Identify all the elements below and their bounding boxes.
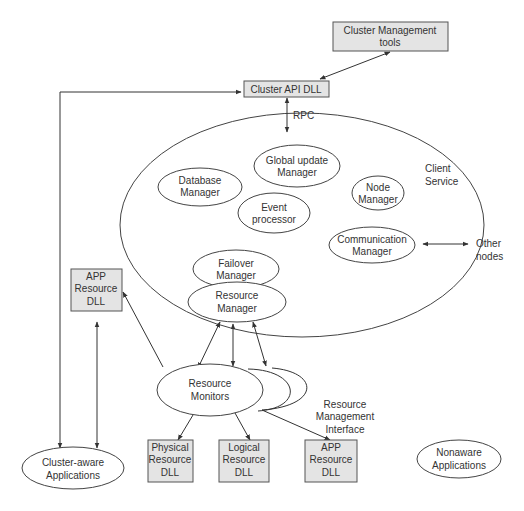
svg-text:APP: APP [86, 271, 106, 282]
svg-text:Resource: Resource [189, 378, 232, 389]
svg-text:Resource: Resource [75, 283, 118, 294]
svg-text:processor: processor [252, 214, 297, 225]
svg-text:Resource: Resource [324, 399, 367, 410]
ellipse-database-manager: Database Manager [158, 168, 242, 206]
svg-text:Resource: Resource [223, 454, 266, 465]
ellipse-event-processor: Event processor [238, 193, 310, 233]
ellipse-resource-monitors: Resource Monitors [157, 364, 263, 416]
svg-text:Monitors: Monitors [191, 391, 229, 402]
ellipse-nonaware-applications: Nonaware Applications [417, 440, 501, 478]
svg-text:Manager: Manager [217, 303, 257, 314]
svg-text:Interface: Interface [326, 424, 365, 435]
ellipse-resource-manager: Resource Manager [188, 282, 286, 322]
svg-text:Resource: Resource [310, 454, 353, 465]
svg-text:Manager: Manager [352, 246, 392, 257]
svg-text:Logical: Logical [228, 442, 260, 453]
svg-text:Client: Client [425, 163, 451, 174]
box-cluster-management-tools: Cluster Management tools [333, 22, 448, 51]
svg-text:Cluster Management: Cluster Management [344, 25, 437, 36]
svg-text:Cluster-aware: Cluster-aware [42, 457, 105, 468]
svg-text:Applications: Applications [46, 470, 100, 481]
svg-text:Resource: Resource [149, 454, 192, 465]
svg-text:DLL: DLL [235, 467, 254, 478]
svg-text:Failover: Failover [218, 258, 254, 269]
box-logical-resource-dll: Logical Resource DLL [219, 440, 269, 482]
cluster-architecture-diagram: Cluster Management tools Cluster API DLL… [0, 0, 524, 511]
monitor-stack-shadow [262, 368, 307, 410]
svg-text:Manager: Manager [216, 270, 256, 281]
svg-text:Physical: Physical [151, 442, 188, 453]
svg-text:Manager: Manager [277, 167, 317, 178]
box-app-resource-dll-left: APP Resource DLL [71, 269, 122, 311]
svg-text:Other: Other [476, 238, 502, 249]
other-nodes-label: Other nodes [476, 238, 503, 262]
ellipse-cluster-aware-applications: Cluster-aware Applications [22, 447, 124, 489]
svg-text:tools: tools [379, 37, 400, 48]
svg-text:APP: APP [321, 442, 341, 453]
svg-text:Cluster API DLL: Cluster API DLL [250, 84, 322, 95]
ellipse-global-update-manager: Global update Manager [254, 145, 340, 187]
svg-text:Database: Database [179, 175, 222, 186]
svg-text:DLL: DLL [87, 296, 106, 307]
svg-text:Manager: Manager [180, 187, 220, 198]
box-app-resource-dll-bottom: APP Resource DLL [305, 440, 357, 482]
svg-text:Global update: Global update [266, 155, 329, 166]
svg-text:nodes: nodes [476, 251, 503, 262]
ellipse-communication-manager: Communication Manager [329, 227, 415, 263]
box-cluster-api-dll: Cluster API DLL [244, 81, 329, 97]
svg-text:Manager: Manager [358, 194, 398, 205]
svg-text:Service: Service [425, 176, 459, 187]
svg-text:Event: Event [261, 202, 287, 213]
svg-text:Management: Management [316, 411, 375, 422]
rpc-label: RPC [293, 110, 314, 121]
box-physical-resource-dll: Physical Resource DLL [148, 440, 193, 482]
svg-text:DLL: DLL [161, 467, 180, 478]
svg-text:Nonaware: Nonaware [436, 447, 482, 458]
resource-management-interface-label: Resource Management Interface [316, 399, 375, 435]
svg-text:DLL: DLL [322, 467, 341, 478]
svg-text:Communication: Communication [337, 234, 406, 245]
ellipse-node-manager: Node Manager [352, 176, 404, 210]
svg-text:Node: Node [366, 182, 390, 193]
svg-text:Resource: Resource [216, 290, 259, 301]
svg-text:Applications: Applications [432, 460, 486, 471]
